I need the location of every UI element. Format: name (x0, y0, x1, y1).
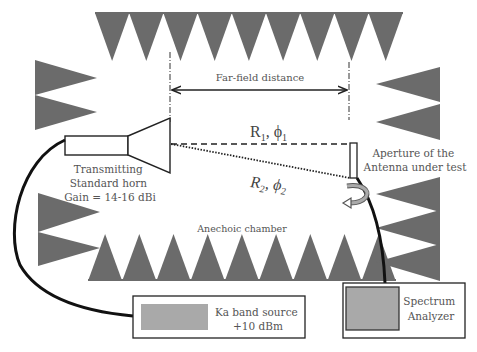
rotation-arrow-icon (343, 186, 367, 208)
ray-paths (171, 144, 350, 178)
analyzer-screen (346, 287, 399, 330)
bottom-absorber-row (88, 234, 396, 281)
antenna-under-test (350, 143, 357, 178)
anechoic-chamber-diagram: Far-field distance R1, ϕ1 R2, ϕ2 Transmi… (0, 0, 477, 352)
aut-caption: Aperture of the Antenna under test (363, 147, 468, 173)
far-field-dimension: Far-field distance (170, 52, 349, 122)
source-panel (141, 304, 208, 330)
horn-caption: Transmitting Standard horn Gain = 14-16 … (64, 163, 156, 203)
ray2-label: R2, ϕ2 (248, 173, 287, 197)
oblique-ray-r2 (171, 144, 350, 178)
chamber-label: Anechoic chamber (196, 223, 287, 234)
ka-band-source: Ka band source +10 dBm (133, 296, 305, 338)
spectrum-analyzer: Spectrum Analyzer (343, 283, 465, 338)
top-absorber-row (95, 12, 403, 61)
right-wall-absorbers (376, 67, 440, 281)
ray1-label: R1, ϕ1 (250, 123, 287, 143)
horn-waveguide (65, 136, 128, 155)
far-field-label: Far-field distance (216, 72, 305, 83)
